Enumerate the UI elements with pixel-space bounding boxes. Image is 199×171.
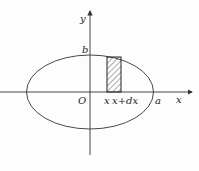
y-axis-label: y xyxy=(79,13,86,24)
strip-right-label: x+dx xyxy=(112,95,138,106)
origin-label: O xyxy=(78,95,86,106)
a-label: a xyxy=(155,95,161,106)
strip-left-label: x xyxy=(104,95,110,106)
b-label: b xyxy=(82,44,88,55)
diagram-canvas: y x O b a x x+dx xyxy=(0,0,199,171)
ellipse-diagram: y x O b a x x+dx xyxy=(0,0,199,171)
hatched-strip xyxy=(107,57,121,92)
x-axis-label: x xyxy=(176,94,182,105)
